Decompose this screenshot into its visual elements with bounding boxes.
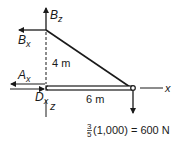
ax-label: Ax <box>17 68 31 84</box>
z-axis-label: z <box>49 100 56 112</box>
bx-label: Bx <box>18 33 31 49</box>
vertical-dimension-label: 4 m <box>52 57 70 69</box>
x-axis-label: x <box>164 82 171 94</box>
load-fraction-denominator: 5 <box>87 130 92 139</box>
free-body-diagram: x z Bz Bx 4 m Ax Dx 6 m 3 5 (1,000) = 60… <box>0 0 186 153</box>
horizontal-beam <box>46 86 132 90</box>
bz-label: Bz <box>50 8 63 24</box>
horizontal-dimension-label: 6 m <box>86 93 104 105</box>
load-expression: (1,000) = 600 N <box>93 124 170 136</box>
pin-joint <box>131 86 136 91</box>
dx-label: Dx <box>35 90 49 106</box>
